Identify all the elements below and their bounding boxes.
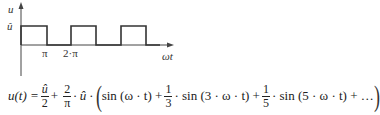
x-axis-arrow-icon [167,43,174,48]
y-tick-label-u-hat: û [7,21,13,32]
amplitude-factor: · û · [73,88,93,104]
y-axis-arrow-icon [19,2,24,9]
sin-term-1: sin (ω · t) + [102,88,163,104]
formula-lhs: u(t) = [8,88,39,104]
open-paren: ( [96,81,102,111]
close-paren: ) [374,81,380,111]
fraction-1-over-5: 1 5 [262,83,270,110]
square-wave-plot [0,0,346,78]
sin-term-5: · sin (5 · ω · t) + … [272,88,374,104]
sin-term-3: · sin (3 · ω · t) + [174,88,260,104]
fourier-series-formula: u(t) = û 2 + 2 π · û · ( sin (ω · t) + 1… [8,78,380,114]
x-tick-label-pi: π [42,48,48,59]
square-wave [21,26,160,45]
fraction-u-hat-over-2: û 2 [41,83,49,110]
fraction-1-over-3: 1 3 [164,83,172,110]
x-axis-label: ωt [162,51,173,62]
fraction-2-over-pi: 2 π [63,83,71,110]
x-tick-label-2pi: 2·π [63,48,78,59]
plus-sign: + [51,88,58,104]
y-axis-label: u [8,4,14,15]
